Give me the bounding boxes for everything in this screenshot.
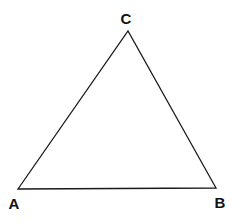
vertex-label-a: A: [9, 195, 20, 212]
diagram-canvas: A B C: [0, 0, 236, 222]
vertex-label-c: C: [121, 10, 132, 27]
vertex-label-b: B: [215, 194, 226, 211]
triangle-svg: A B C: [0, 0, 236, 222]
triangle-abc: [18, 31, 216, 189]
